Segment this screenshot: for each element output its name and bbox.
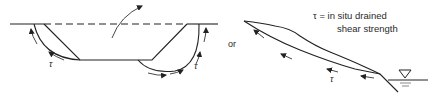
shear-arrow-right-1 — [148, 73, 166, 75]
slip-surface-right — [138, 24, 199, 72]
shear-arrow-1 — [254, 30, 264, 38]
slope-stability-diagram: τ τ or τ τ = in situ drained shear — [0, 0, 433, 101]
excavation-figure: τ τ — [10, 6, 218, 75]
shear-arrow-4 — [361, 76, 374, 78]
shear-arrow-right-4 — [204, 28, 206, 42]
or-label: or — [228, 39, 236, 49]
legend-line-1: τ = in situ drained — [313, 10, 387, 21]
shear-arrow-3 — [327, 69, 338, 72]
shear-arrow-2 — [281, 54, 292, 59]
water-table-icon — [388, 70, 428, 86]
legend-line-2: shear strength — [337, 23, 398, 34]
tau-label: τ — [330, 74, 334, 84]
unloading-arrow — [112, 6, 142, 38]
tau-label-left: τ — [49, 59, 53, 69]
natural-slope-figure: τ — [244, 21, 428, 92]
legend: τ = in situ drained shear strength — [313, 10, 398, 34]
tau-label-right: τ — [194, 61, 198, 71]
slip-surface-left — [34, 24, 80, 60]
